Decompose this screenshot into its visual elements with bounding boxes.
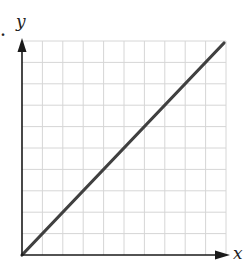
- stray-mark: .: [1, 22, 5, 39]
- y-axis-arrow-icon: [18, 38, 27, 52]
- data-line: [22, 43, 224, 255]
- x-axis-arrow-icon: [215, 251, 230, 260]
- x-axis-label: x: [233, 243, 243, 263]
- line-chart: . y x: [0, 0, 243, 269]
- y-axis-label: y: [15, 11, 26, 31]
